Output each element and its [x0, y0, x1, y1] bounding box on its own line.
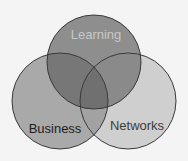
- learning-label: Learning: [71, 27, 122, 42]
- business-label: Business: [29, 121, 82, 136]
- networks-label: Networks: [110, 118, 165, 133]
- venn-diagram: Learning Business Networks: [0, 0, 188, 161]
